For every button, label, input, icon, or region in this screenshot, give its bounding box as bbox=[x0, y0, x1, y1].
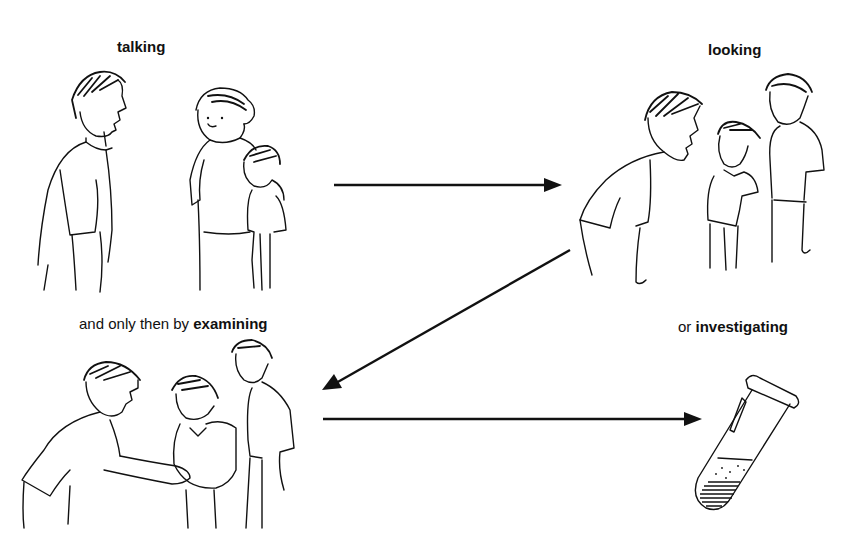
looking-illustration bbox=[580, 74, 824, 284]
examining-illustration bbox=[22, 340, 294, 528]
child-looking-figure bbox=[708, 122, 760, 270]
arrow-looking-to-examining bbox=[322, 250, 570, 390]
arrow-talking-to-looking bbox=[334, 178, 562, 192]
mother-watching-figure bbox=[232, 340, 294, 528]
doctor-figure bbox=[38, 72, 126, 292]
mother-figure bbox=[190, 88, 256, 290]
mother-standing-figure bbox=[766, 74, 824, 262]
doctor-bending-figure bbox=[580, 92, 702, 284]
child-examined-figure bbox=[172, 376, 236, 528]
arrow-examining-to-investigating bbox=[323, 412, 702, 426]
child-figure bbox=[244, 146, 286, 290]
talking-illustration bbox=[38, 72, 286, 292]
doctor-examining-figure bbox=[22, 362, 190, 528]
test-tube-icon bbox=[695, 375, 798, 509]
diagram-canvas bbox=[0, 0, 848, 560]
